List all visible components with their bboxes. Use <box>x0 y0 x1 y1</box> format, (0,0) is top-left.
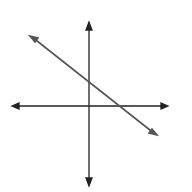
x-axis-left-arrow-icon <box>12 103 19 109</box>
graph-canvas <box>0 0 192 192</box>
axes <box>12 22 168 186</box>
x-axis-right-arrow-icon <box>161 103 168 109</box>
equation-line <box>30 36 157 135</box>
y-axis-up-arrow-icon <box>86 22 92 30</box>
y-axis-down-arrow-icon <box>86 178 92 186</box>
